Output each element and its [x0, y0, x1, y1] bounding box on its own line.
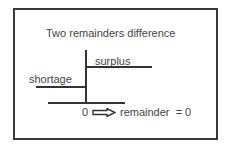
zero-baseline — [48, 102, 125, 104]
vertical-axis-line — [85, 50, 87, 104]
remainder-equals-zero-label: remainder = 0 — [120, 107, 191, 118]
zero-label: 0 — [82, 107, 88, 118]
shortage-line — [36, 86, 86, 88]
diagram-title: Two remainders difference — [46, 28, 175, 39]
right-arrow-icon — [92, 108, 116, 117]
surplus-label: surplus — [95, 56, 130, 67]
shortage-label: shortage — [29, 74, 72, 85]
